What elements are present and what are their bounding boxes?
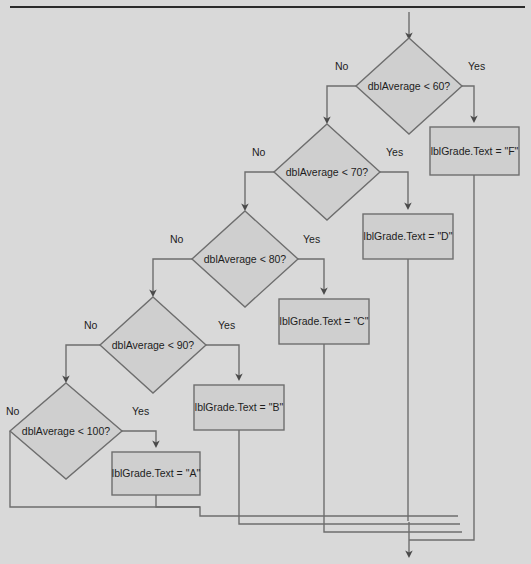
connector-yes-90 bbox=[206, 345, 239, 377]
branch-label-yes-90: Yes bbox=[218, 319, 235, 331]
branch-label-no-80: No bbox=[170, 233, 184, 245]
branch-label-yes-100: Yes bbox=[132, 405, 149, 417]
connector-no-60 bbox=[327, 86, 356, 120]
connector-yes-70 bbox=[380, 172, 408, 206]
process-node-grade-b[interactable]: lblGrade.Text = "B" bbox=[194, 385, 284, 430]
process-label-grade-c: lblGrade.Text = "C" bbox=[280, 315, 369, 327]
flowchart-canvas: dblAverage < 60? dblAverage < 70? dblAve… bbox=[0, 0, 531, 564]
branch-label-yes-70: Yes bbox=[386, 146, 403, 158]
flowchart-page: dblAverage < 60? dblAverage < 70? dblAve… bbox=[0, 0, 531, 564]
decision-node-100[interactable]: dblAverage < 100? bbox=[10, 383, 122, 479]
connector-yes-60 bbox=[462, 86, 474, 119]
connector-yes-80 bbox=[298, 259, 324, 291]
branch-label-no-60: No bbox=[335, 60, 349, 72]
branch-label-yes-80: Yes bbox=[303, 233, 320, 245]
branch-label-no-90: No bbox=[84, 319, 98, 331]
connector-yes-100 bbox=[122, 431, 156, 444]
decision-label-70: dblAverage < 70? bbox=[286, 166, 369, 178]
process-node-grade-c[interactable]: lblGrade.Text = "C" bbox=[279, 299, 369, 344]
decision-label-80: dblAverage < 80? bbox=[204, 253, 287, 265]
merge-rail-b bbox=[239, 430, 460, 524]
process-label-grade-a: lblGrade.Text = "A" bbox=[112, 467, 201, 479]
decision-node-80[interactable]: dblAverage < 80? bbox=[192, 211, 298, 307]
connector-no-90 bbox=[66, 345, 100, 379]
branch-label-yes-60: Yes bbox=[468, 60, 485, 72]
decision-node-60[interactable]: dblAverage < 60? bbox=[356, 38, 462, 134]
process-node-grade-f[interactable]: lblGrade.Text = "F" bbox=[430, 127, 519, 175]
decision-label-60: dblAverage < 60? bbox=[368, 80, 451, 92]
branch-label-no-70: No bbox=[252, 146, 266, 158]
connector-no-80 bbox=[153, 259, 192, 293]
process-label-grade-f: lblGrade.Text = "F" bbox=[431, 145, 519, 157]
decision-label-100: dblAverage < 100? bbox=[22, 425, 110, 437]
merge-rail-c bbox=[324, 344, 462, 532]
decision-node-70[interactable]: dblAverage < 70? bbox=[274, 124, 380, 220]
process-node-grade-d[interactable]: lblGrade.Text = "D" bbox=[363, 214, 453, 259]
connector-no-70 bbox=[245, 172, 274, 207]
branch-label-no-100: No bbox=[6, 405, 20, 417]
process-node-grade-a[interactable]: lblGrade.Text = "A" bbox=[112, 452, 201, 495]
decision-label-90: dblAverage < 90? bbox=[112, 339, 195, 351]
process-label-grade-b: lblGrade.Text = "B" bbox=[195, 401, 284, 413]
decision-node-90[interactable]: dblAverage < 90? bbox=[100, 297, 206, 393]
merge-rail-a bbox=[156, 495, 458, 516]
process-label-grade-d: lblGrade.Text = "D" bbox=[364, 230, 453, 242]
